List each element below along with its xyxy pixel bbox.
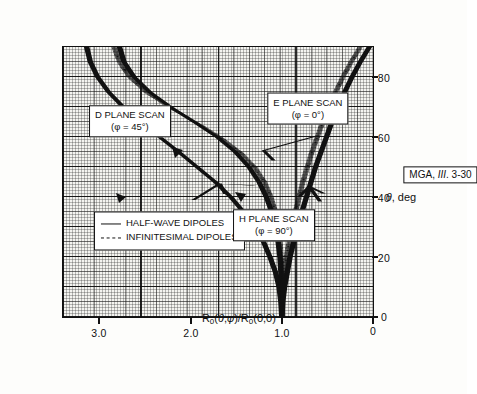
figure-reference-roman: III	[437, 169, 445, 180]
legend-box: HALF-WAVE DIPOLES INFINITESIMAL DIPOLES	[93, 211, 244, 250]
leader-arrowheads	[63, 47, 373, 317]
xtick-label-60: 60	[377, 132, 391, 144]
rotated-figure-container: 0 20 40 60 80 θ, deg 0 1.0 2.0 3.0 R0(θ,…	[54, 32, 414, 362]
figure-reference-prefix: MGA,	[409, 169, 437, 180]
ytick-3.0	[98, 318, 100, 324]
legend-item-half-wave-dipoles: HALF-WAVE DIPOLES	[100, 216, 237, 230]
figure-reference-suffix: . 3-30	[446, 169, 472, 180]
ytick-0	[372, 318, 374, 324]
xtick-label-80: 80	[377, 72, 391, 84]
annotation-e-plane-line1: E PLANE SCAN	[273, 97, 342, 108]
annotation-d-plane-scan: D PLANE SCAN (φ = 45°)	[89, 105, 171, 137]
legend-line-solid-icon	[100, 223, 120, 224]
arrowhead-d-plane	[172, 147, 183, 158]
legend-label-infinitesimal-dipoles: INFINITESIMAL DIPOLES	[125, 231, 237, 245]
x-axis-title: θ, deg	[385, 191, 415, 203]
figure-reference-box: MGA, III. 3-30	[403, 166, 477, 183]
annotation-h-plane-scan: H PLANE SCAN (φ = 90°)	[233, 209, 315, 241]
ytick-label-1.0: 1.0	[271, 327, 293, 339]
x-axis-title-unit: , deg	[391, 191, 415, 203]
ytick-2.0	[190, 318, 192, 324]
legend-line-dashed-icon	[100, 237, 120, 238]
xtick-label-0: 0	[377, 311, 391, 323]
annotation-e-plane-scan: E PLANE SCAN (φ = 0°)	[267, 93, 348, 125]
ytick-label-3.0: 3.0	[88, 327, 110, 339]
annotation-d-plane-line1: D PLANE SCAN	[95, 109, 165, 120]
arrowhead-h-plane	[235, 192, 246, 202]
xtick-label-20: 20	[377, 252, 391, 264]
ytick-1.0	[281, 318, 283, 324]
plot-area	[62, 46, 374, 318]
annotation-d-plane-line2: (φ = 45°)	[95, 121, 165, 133]
legend-item-infinitesimal-dipoles: INFINITESIMAL DIPOLES	[100, 231, 237, 245]
annotation-h-plane-line2: (φ = 90°)	[239, 225, 309, 237]
ytick-label-2.0: 2.0	[180, 327, 202, 339]
annotation-e-plane-line2: (φ = 0°)	[273, 108, 342, 120]
y-axis-title-text: R0(θ,φ)/R0(0,0)	[201, 312, 275, 324]
arrowhead-e-plane	[116, 193, 126, 203]
x-axis-title-symbol: θ	[385, 191, 391, 203]
legend-label-half-wave-dipoles: HALF-WAVE DIPOLES	[125, 216, 223, 230]
y-axis-title: R0(θ,φ)/R0(0,0)	[201, 312, 275, 326]
annotation-h-plane-line1: H PLANE SCAN	[239, 213, 309, 224]
ytick-label-0: 0	[364, 325, 382, 337]
